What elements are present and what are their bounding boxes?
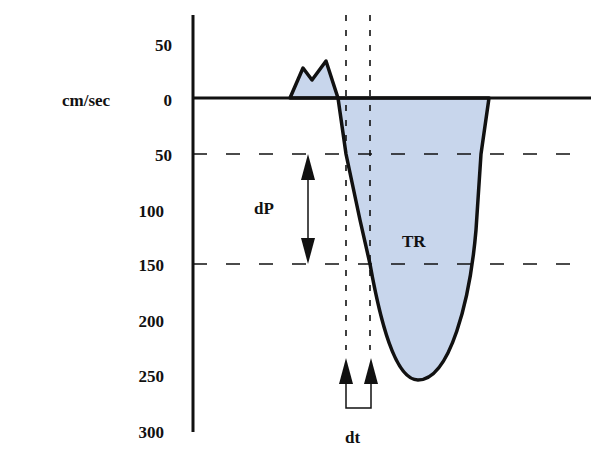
tr-label: TR [402,233,426,250]
tr-doppler-diagram [0,0,613,473]
dt-label: dt [345,429,360,446]
y-tick-label: 200 [104,313,164,330]
y-tick-label: 150 [104,257,164,274]
dp-label: dP [254,200,274,217]
y-unit-label: cm/sec [62,92,110,109]
positive-flow-wave [290,61,338,98]
dp-arrow [301,154,315,264]
y-tick-label: 0 [112,92,172,109]
y-tick-label: 250 [104,368,164,385]
y-tick-label: 300 [104,424,164,441]
y-tick-label: 50 [112,147,172,164]
y-tick-label: 100 [104,203,164,220]
dt-arrows [339,358,378,408]
y-tick-label: 50 [112,37,172,54]
